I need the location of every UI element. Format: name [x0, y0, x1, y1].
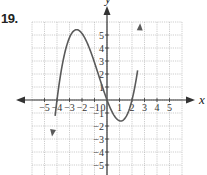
x-axis-label: x [198, 92, 205, 107]
x-tick-label: 1 [117, 102, 122, 113]
y-axis-label: y [103, 0, 111, 6]
x-tick-label: −2 [77, 102, 88, 113]
y-axis-up-arrow-icon [104, 6, 111, 15]
y-tick-label: 3 [99, 56, 104, 67]
x-tick-label: 4 [155, 102, 160, 113]
y-tick-label: 5 [99, 30, 104, 41]
x-axis-left-arrow-icon [16, 97, 25, 104]
x-tick-label: −3 [64, 102, 75, 113]
curve-left-arrow-icon [50, 129, 56, 136]
y-tick-label: −2 [93, 121, 104, 132]
x-tick-label: −5 [39, 102, 50, 113]
y-tick-label: −3 [93, 134, 104, 145]
y-tick-label: −5 [93, 160, 104, 171]
y-tick-label: −4 [93, 147, 104, 158]
y-tick-label: −1 [93, 108, 104, 119]
curve-right-arrow-icon [137, 23, 143, 30]
x-axis-right-arrow-icon [186, 97, 195, 104]
x-tick-label: 3 [142, 102, 147, 113]
cubic-function-graph: xy−5−4−3−2−1012345−5−4−3−2−112345 [0, 0, 207, 175]
y-tick-label: 4 [99, 43, 104, 54]
x-tick-label: 5 [167, 102, 172, 113]
